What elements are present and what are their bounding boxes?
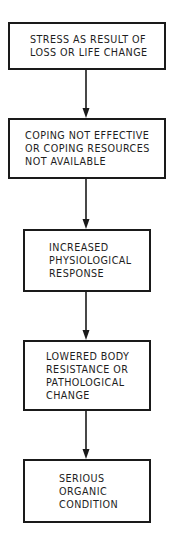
node-text-line: RESISTANCE OR <box>46 363 149 376</box>
node-text-line: CONDITION <box>59 498 149 511</box>
node-text-line: SERIOUS <box>59 472 149 485</box>
node-text-line: RESPONSE <box>49 267 149 280</box>
flow-arrow-2 <box>80 178 92 230</box>
node-text-line: PHYSIOLOGICAL <box>49 254 149 267</box>
node-text-line: STRESS AS RESULT OF <box>30 33 164 46</box>
flow-arrow-1 <box>80 69 92 119</box>
node-text-line: CHANGE <box>46 389 149 402</box>
node-text-line: PATHOLOGICAL <box>46 376 149 389</box>
node-text-line: COPING NOT EFFECTIVE <box>25 129 164 142</box>
node-text-line: LOWERED BODY <box>46 350 149 363</box>
flow-node-physiological: INCREASED PHYSIOLOGICAL RESPONSE <box>23 229 151 292</box>
node-text-line: INCREASED <box>49 241 149 254</box>
flow-node-organic: SERIOUS ORGANIC CONDITION <box>23 459 151 523</box>
flow-node-stress: STRESS AS RESULT OF LOSS OR LIFE CHANGE <box>8 22 166 70</box>
node-text-line: OR COPING RESOURCES <box>25 142 164 155</box>
arrow-down-icon <box>80 410 92 460</box>
flow-node-coping: COPING NOT EFFECTIVE OR COPING RESOURCES… <box>8 118 166 179</box>
node-text-line: LOSS OR LIFE CHANGE <box>30 46 164 59</box>
node-text-line: ORGANIC <box>59 485 149 498</box>
flow-node-resistance: LOWERED BODY RESISTANCE OR PATHOLOGICAL … <box>23 340 151 411</box>
node-text-line: NOT AVAILABLE <box>25 155 164 168</box>
flow-arrow-3 <box>80 291 92 341</box>
flow-arrow-4 <box>80 410 92 460</box>
arrow-down-icon <box>80 69 92 119</box>
arrow-down-icon <box>80 291 92 341</box>
arrow-down-icon <box>80 178 92 230</box>
